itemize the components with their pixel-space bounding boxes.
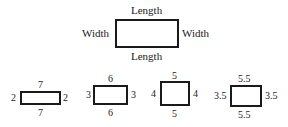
rect4-top-label: 5.5 <box>238 74 251 84</box>
rect2-right-label: 3 <box>131 90 136 100</box>
rect1-top-label: 7 <box>38 80 43 90</box>
rectangle-5.5x3.5 <box>230 85 262 107</box>
rect3-left-label: 4 <box>151 89 156 99</box>
rect2-top-label: 6 <box>108 74 113 84</box>
rectangle-5x4 <box>160 81 190 106</box>
rect2-bottom-label: 6 <box>108 108 113 118</box>
rect3-right-label: 4 <box>193 89 198 99</box>
rect3-bottom-label: 5 <box>172 109 177 119</box>
rect4-bottom-label: 5.5 <box>238 110 251 120</box>
main-left-label: Width <box>82 28 109 39</box>
main-bottom-label: Length <box>131 51 162 62</box>
rect4-right-label: 3.5 <box>265 91 278 101</box>
rectangle-7x2 <box>20 91 61 105</box>
main-top-label: Length <box>131 5 162 16</box>
rect1-left-label: 2 <box>11 93 16 103</box>
rect3-top-label: 5 <box>172 71 177 81</box>
main-right-label: Width <box>182 28 209 39</box>
rectangle-6x3 <box>93 85 128 105</box>
rect1-right-label: 2 <box>63 93 68 103</box>
rect1-bottom-label: 7 <box>38 108 43 118</box>
rect4-left-label: 3.5 <box>214 91 227 101</box>
main-rectangle <box>115 19 179 48</box>
rect2-left-label: 3 <box>86 90 91 100</box>
